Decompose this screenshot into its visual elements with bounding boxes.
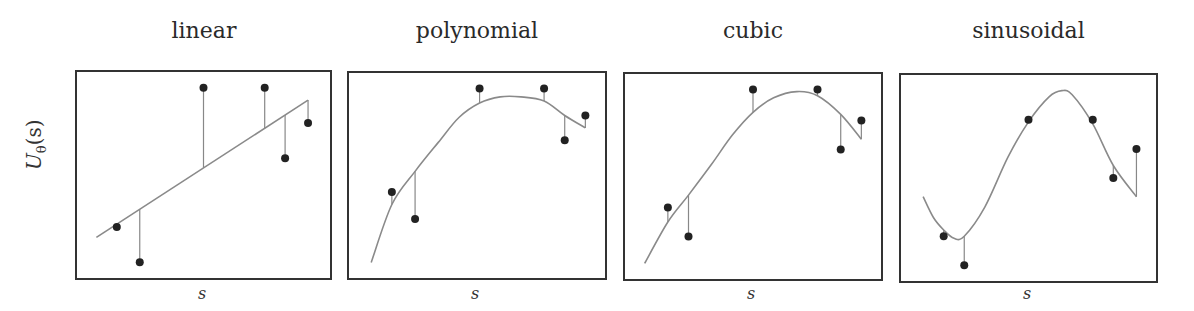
- data-point: [476, 85, 484, 93]
- panel-cubic: [624, 73, 882, 280]
- data-point: [1089, 116, 1097, 124]
- data-point: [837, 146, 845, 154]
- data-point: [388, 188, 396, 196]
- data-point: [1132, 145, 1140, 153]
- data-point: [814, 86, 822, 94]
- data-point: [561, 136, 569, 144]
- panel-linear: [76, 71, 331, 279]
- data-point: [857, 117, 865, 125]
- data-point: [411, 215, 419, 223]
- data-point: [113, 223, 121, 231]
- data-point: [540, 85, 548, 93]
- data-point: [581, 111, 589, 119]
- data-point: [261, 84, 269, 92]
- plot-frame: [348, 72, 606, 279]
- fit-curve: [645, 92, 862, 264]
- data-point: [1025, 116, 1033, 124]
- panel-polynomial: [348, 72, 606, 279]
- data-point: [960, 261, 968, 269]
- fit-curve: [923, 90, 1136, 239]
- data-point: [749, 86, 757, 94]
- data-point: [685, 233, 693, 241]
- data-point: [940, 232, 948, 240]
- data-point: [200, 84, 208, 92]
- fit-curve: [96, 100, 308, 237]
- plots-canvas: [0, 0, 1194, 311]
- panel-sinusoidal: [900, 74, 1157, 282]
- data-point: [281, 154, 289, 162]
- fit-curve: [371, 96, 585, 262]
- data-point: [136, 258, 144, 266]
- data-point: [304, 119, 312, 127]
- data-point: [664, 204, 672, 212]
- plot-frame: [900, 74, 1157, 282]
- data-point: [1109, 174, 1117, 182]
